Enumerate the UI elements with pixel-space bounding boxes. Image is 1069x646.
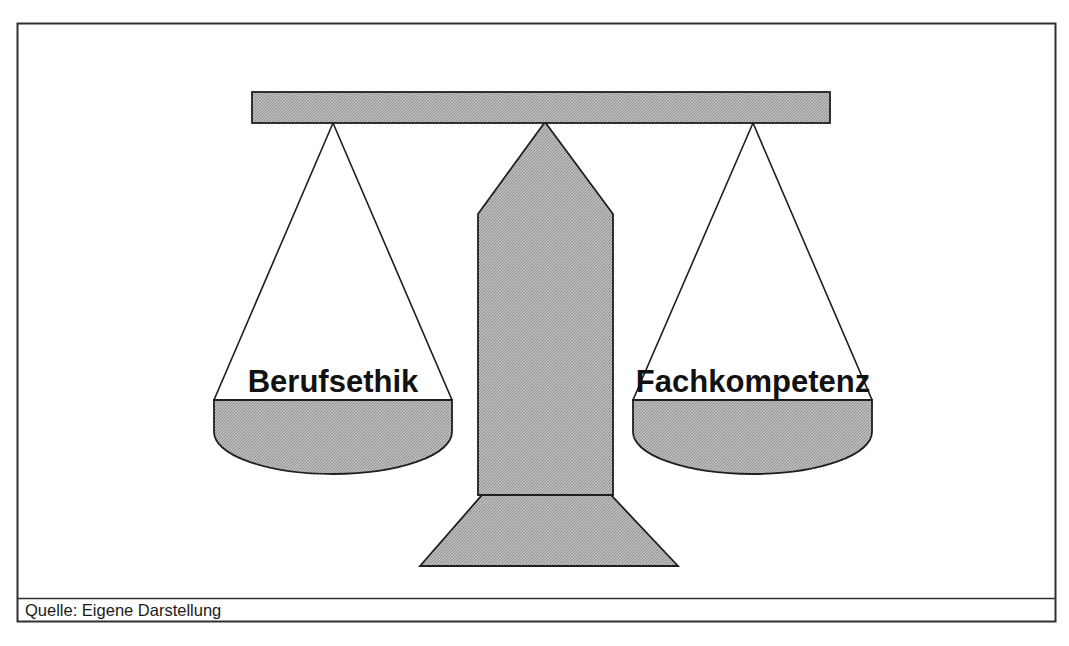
figure-container: Berufsethik Fachkompetenz Quelle: Eigene… xyxy=(0,0,1069,646)
balance-beam xyxy=(252,92,830,123)
balance-scale-diagram: Berufsethik Fachkompetenz Quelle: Eigene… xyxy=(0,0,1069,646)
right-pan-label: Fachkompetenz xyxy=(636,364,870,399)
left-pan-label: Berufsethik xyxy=(248,364,419,399)
left-pan xyxy=(214,400,452,474)
right-pan xyxy=(633,400,872,474)
source-caption: Quelle: Eigene Darstellung xyxy=(25,601,221,619)
